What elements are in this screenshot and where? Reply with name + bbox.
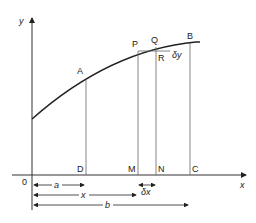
x-axis-label: x (239, 180, 245, 190)
point-N-label: N (158, 164, 165, 174)
point-B-label: B (187, 31, 193, 41)
dimension-a-label: a (54, 180, 59, 190)
point-D-label: D (77, 164, 84, 174)
point-A-label: A (77, 66, 83, 76)
y-axis-label: y (18, 16, 24, 26)
point-M-label: M (128, 164, 136, 174)
delta-y-label: δy (172, 50, 182, 60)
point-Q-label: Q (151, 35, 158, 45)
point-R-label: R (158, 53, 165, 63)
point-P-label: P (132, 39, 138, 49)
point-C-label: C (192, 164, 199, 174)
delta-x-label: δx (141, 187, 151, 197)
origin-label: 0 (22, 177, 27, 187)
dimension-x-label: x (80, 190, 86, 200)
area-under-curve-diagram: y x 0 A P Q B R δy D M N C a x b δx (0, 0, 256, 223)
dimension-b-label: b (105, 200, 110, 210)
